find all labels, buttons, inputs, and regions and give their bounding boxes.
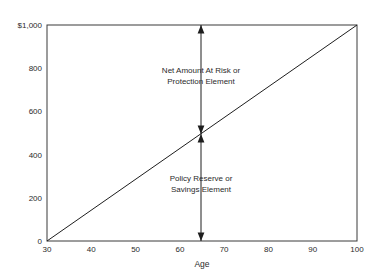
x-tick-label-70: 70 <box>220 245 229 254</box>
x-tick-label-60: 60 <box>175 245 184 254</box>
y-tick-label-1000: $1,000 <box>18 21 43 30</box>
x-tick-label-90: 90 <box>308 245 317 254</box>
chart-container: $1,000 800 600 400 200 0 30 40 50 60 70 … <box>0 0 379 280</box>
x-tick-label-30: 30 <box>43 245 52 254</box>
y-tick-label-600: 600 <box>29 107 43 116</box>
y-tick-label-800: 800 <box>29 64 43 73</box>
net-amount-at-risk-arrowhead-down <box>198 126 205 135</box>
y-tick-label-400: 400 <box>29 151 43 160</box>
net-amount-at-risk-label-line1: Net Amount At Risk or <box>162 66 241 75</box>
policy-reserve-label-line2: Savings Element <box>171 185 232 194</box>
x-tick-label-80: 80 <box>264 245 273 254</box>
x-tick-label-100: 100 <box>350 245 364 254</box>
y-tick-label-200: 200 <box>29 194 43 203</box>
policy-reserve-arrowhead-down <box>198 233 205 242</box>
x-tick-label-40: 40 <box>87 245 96 254</box>
net-amount-at-risk-arrowhead-up <box>198 25 205 34</box>
net-amount-at-risk-label-line2: Protection Element <box>167 77 235 86</box>
policy-reserve-label-line1: Policy Reserve or <box>170 174 233 183</box>
chart-canvas: $1,000 800 600 400 200 0 30 40 50 60 70 … <box>0 0 379 280</box>
x-axis-title: Age <box>194 259 209 269</box>
cash-value-line <box>47 25 357 241</box>
x-tick-label-50: 50 <box>131 245 140 254</box>
